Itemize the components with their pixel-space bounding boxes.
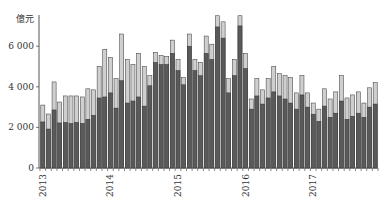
bar-bottom-2013-02 xyxy=(46,129,50,168)
bar-bottom-2017-04 xyxy=(328,117,332,168)
bar-bottom-2017-08 xyxy=(351,116,355,168)
bar-bottom-2013-08 xyxy=(80,123,84,168)
bar-bottom-2015-01 xyxy=(176,71,180,168)
bar-bottom-2016-05 xyxy=(266,98,270,168)
bar-bottom-2017-01 xyxy=(311,114,315,168)
bar-bottom-2013-07 xyxy=(75,122,79,168)
bar-bottom-2014-09 xyxy=(153,62,157,168)
bar-bottom-2014-10 xyxy=(159,64,163,168)
bar-bottom-2017-10 xyxy=(362,117,366,168)
bar-bottom-2014-11 xyxy=(165,64,169,168)
bar-bottom-2017-07 xyxy=(345,119,349,168)
bar-bottom-2013-09 xyxy=(86,119,90,168)
bar-bottom-2016-04 xyxy=(260,104,264,168)
y-tick-label: 6 000 xyxy=(8,41,34,51)
bar-bottom-2014-03 xyxy=(120,81,124,168)
bar-bottom-2016-01 xyxy=(244,69,248,168)
bar-bottom-2016-12 xyxy=(306,107,310,168)
bar-bottom-2015-11 xyxy=(232,76,236,168)
bar-bottom-2015-03 xyxy=(187,46,191,168)
x-tick-label-2013: 2013 xyxy=(38,174,48,197)
y-tick-label: 0 xyxy=(28,163,34,173)
bar-bottom-2015-06 xyxy=(204,53,208,168)
bar-bottom-2016-03 xyxy=(255,96,259,168)
bar-bottom-2015-07 xyxy=(210,59,214,168)
bar-bottom-2015-08 xyxy=(215,27,219,168)
bars-group xyxy=(41,16,377,168)
bar-bottom-2017-02 xyxy=(317,121,321,168)
bar-bottom-2013-11 xyxy=(97,98,101,168)
bar-bottom-2013-06 xyxy=(69,123,73,168)
bar-bottom-2014-04 xyxy=(125,103,129,168)
bar-bottom-2017-06 xyxy=(339,101,343,168)
bar-bottom-2017-12 xyxy=(373,104,377,168)
bar-bottom-2014-07 xyxy=(142,106,146,168)
bar-bottom-2017-05 xyxy=(334,113,338,168)
x-tick-label-2016: 2016 xyxy=(241,174,251,197)
y-tick-label: 2 000 xyxy=(8,122,34,132)
bar-bottom-2014-02 xyxy=(114,108,118,168)
bar-bottom-2015-12 xyxy=(238,26,242,168)
bar-bottom-2013-05 xyxy=(63,122,67,168)
bar-bottom-2016-10 xyxy=(294,109,298,168)
bar-bottom-2016-11 xyxy=(300,95,304,168)
bar-bottom-2015-05 xyxy=(199,76,203,168)
x-tick-label-2017: 2017 xyxy=(308,174,318,197)
bar-bottom-2014-08 xyxy=(148,86,152,168)
stacked-bar-chart: 02 0004 0006 000億元20132014201520162017 xyxy=(0,0,385,209)
bar-bottom-2015-04 xyxy=(193,71,197,168)
x-tick-label-2014: 2014 xyxy=(105,174,115,197)
bar-bottom-2014-06 xyxy=(137,97,141,168)
bar-bottom-2016-09 xyxy=(289,103,293,168)
bar-bottom-2014-01 xyxy=(108,93,112,168)
y-tick-label: 4 000 xyxy=(8,82,34,92)
bar-bottom-2015-02 xyxy=(182,85,186,168)
bar-bottom-2014-05 xyxy=(131,101,135,168)
bar-bottom-2016-02 xyxy=(249,109,253,168)
bar-bottom-2016-06 xyxy=(272,92,276,168)
bar-bottom-2015-09 xyxy=(221,38,225,168)
y-axis-unit-label: 億元 xyxy=(16,13,34,24)
bar-bottom-2013-01 xyxy=(41,122,45,168)
bar-bottom-2013-12 xyxy=(103,97,107,168)
bar-bottom-2015-10 xyxy=(227,93,231,168)
bar-bottom-2017-09 xyxy=(356,113,360,168)
bar-bottom-2014-12 xyxy=(170,53,174,168)
bar-bottom-2013-04 xyxy=(58,123,62,168)
bar-bottom-2016-07 xyxy=(277,96,281,168)
x-tick-label-2015: 2015 xyxy=(173,174,183,197)
bar-bottom-2013-10 xyxy=(91,115,95,168)
bar-bottom-2016-08 xyxy=(283,99,287,168)
bar-bottom-2013-03 xyxy=(52,110,56,168)
bar-bottom-2017-11 xyxy=(368,107,372,168)
bar-bottom-2017-03 xyxy=(322,106,326,168)
